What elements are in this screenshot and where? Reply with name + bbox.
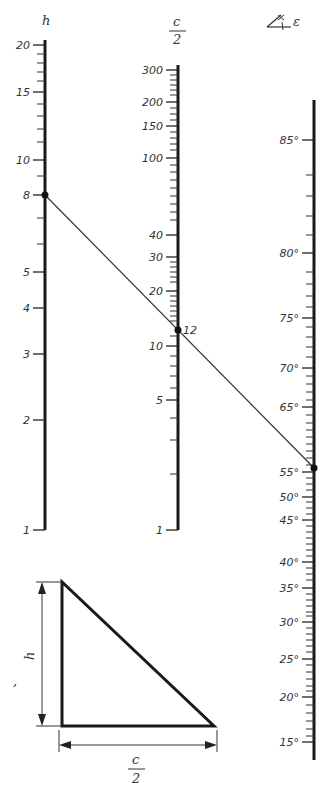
tick-label: 150 [142,120,163,133]
stray-mark: , [13,673,17,688]
scale-epsilon: 85°80°75°70°65°55°50°45°40°35°30°25°20°1… [280,100,315,760]
point-c-half-label: 12 [183,324,197,337]
scale-c-half-title: c 2 [169,14,186,47]
point-c-half [175,327,182,334]
tick-label: 45° [280,514,300,527]
tick-label: 100 [142,152,163,165]
tick-label: 50° [280,491,300,504]
tick-label: 65° [280,401,300,414]
triangle-height-label: h [22,652,37,660]
point-epsilon [311,465,318,472]
tick-label: 20 [16,39,30,52]
tick-label: 70° [280,362,300,375]
tick-label: 75° [280,312,300,325]
scale-h: 201510854321 [16,39,45,537]
tick-label: 25° [280,653,300,666]
nomogram-diagram: 201510854321 3002001501004030201051 85°8… [0,0,319,788]
tick-label: 80° [280,247,300,260]
tick-label: 40 [149,229,163,242]
tick-label: 4 [23,302,30,315]
tick-label: 300 [142,64,163,77]
point-h [42,192,49,199]
tick-label: 30 [149,251,163,264]
triangle-base-label-num: c [132,752,140,767]
tick-label: 15° [280,736,300,749]
tick-label: 20 [149,285,163,298]
scale-h-title: h [42,13,50,28]
tick-label: 1 [156,524,163,537]
tick-label: 15 [16,86,30,99]
svg-text:ε: ε [293,14,300,29]
svg-text:c: c [173,14,181,29]
tick-label: 3 [23,348,30,361]
tick-label: 2 [23,414,30,427]
tick-label: 30° [280,616,300,629]
tick-label: 10 [149,340,163,353]
triangle-base-label-den: 2 [131,771,140,786]
tick-label: 55° [280,466,300,479]
svg-text:2: 2 [172,32,181,47]
tick-label: 5 [23,266,30,279]
tick-label: 20° [280,691,300,704]
triangle-sketch: h , c 2 [13,582,217,786]
tick-label: 5 [156,394,163,407]
tick-label: 35° [280,582,300,595]
tick-label: 10 [16,154,30,167]
tick-label: 1 [23,524,30,537]
tick-label: 200 [142,96,163,109]
scale-c-half: 3002001501004030201051 [142,64,178,537]
angle-symbol-icon: ε [267,14,300,30]
tick-label: 85° [280,134,300,147]
tick-label: 8 [23,189,30,202]
tick-label: 40° [280,556,300,569]
